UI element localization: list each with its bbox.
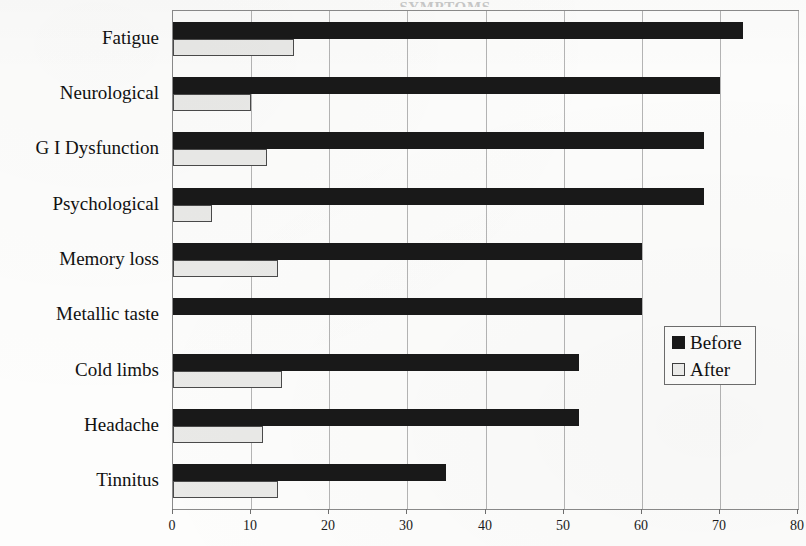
y-axis-label-headache: Headache bbox=[84, 415, 159, 434]
x-tick-label-60: 60 bbox=[634, 518, 648, 534]
bar-after bbox=[173, 205, 212, 222]
gridline-70 bbox=[720, 11, 721, 509]
x-tick-50 bbox=[563, 509, 564, 514]
x-tick-label-40: 40 bbox=[478, 518, 492, 534]
x-tick-label-80: 80 bbox=[790, 518, 804, 534]
x-tick-label-10: 10 bbox=[243, 518, 257, 534]
chart-page: SYMPTOMS FatigueNeurologicalG I Dysfunct… bbox=[0, 0, 806, 546]
x-tick-label-20: 20 bbox=[321, 518, 335, 534]
y-axis-label-memory-loss: Memory loss bbox=[59, 249, 159, 268]
x-tick-60 bbox=[641, 509, 642, 514]
x-tick-10 bbox=[250, 509, 251, 514]
bar-before bbox=[173, 188, 704, 205]
legend-entry-after: After bbox=[672, 357, 730, 381]
gridline-80 bbox=[798, 11, 799, 509]
bar-after bbox=[173, 371, 282, 388]
y-axis-label-g-i-dysfunction: G I Dysfunction bbox=[36, 138, 159, 157]
y-axis-label-fatigue: Fatigue bbox=[102, 28, 159, 47]
legend-entry-before: Before bbox=[672, 330, 742, 354]
bar-before bbox=[173, 354, 579, 371]
x-tick-label-70: 70 bbox=[712, 518, 726, 534]
x-tick-30 bbox=[406, 509, 407, 514]
bar-before bbox=[173, 298, 642, 315]
bar-before bbox=[173, 22, 743, 39]
x-tick-40 bbox=[485, 509, 486, 514]
x-axis: 01020304050607080 bbox=[172, 509, 799, 545]
bar-before bbox=[173, 243, 642, 260]
bar-after bbox=[173, 426, 263, 443]
x-tick-label-30: 30 bbox=[399, 518, 413, 534]
legend-swatch-before-icon bbox=[672, 336, 685, 349]
x-tick-70 bbox=[719, 509, 720, 514]
clipped-title-sliver: SYMPTOMS bbox=[330, 0, 560, 7]
x-tick-label-0: 0 bbox=[169, 518, 176, 534]
bar-after bbox=[173, 149, 267, 166]
y-axis-category-labels: FatigueNeurologicalG I DysfunctionPsycho… bbox=[0, 0, 165, 546]
legend-swatch-after-icon bbox=[672, 363, 685, 376]
bar-after bbox=[173, 39, 294, 56]
y-axis-label-cold-limbs: Cold limbs bbox=[75, 360, 159, 379]
x-tick-80 bbox=[797, 509, 798, 514]
legend-label-before: Before bbox=[690, 333, 742, 352]
bar-before bbox=[173, 409, 579, 426]
bar-before bbox=[173, 132, 704, 149]
chart-legend: Before After bbox=[664, 326, 756, 385]
x-tick-20 bbox=[328, 509, 329, 514]
y-axis-label-neurological: Neurological bbox=[60, 83, 159, 102]
plot-area bbox=[172, 10, 799, 510]
y-axis-label-tinnitus: Tinnitus bbox=[96, 470, 159, 489]
bar-before bbox=[173, 77, 720, 94]
y-axis-label-psychological: Psychological bbox=[52, 194, 159, 213]
x-tick-0 bbox=[172, 509, 173, 514]
bar-after bbox=[173, 260, 278, 277]
x-tick-label-50: 50 bbox=[556, 518, 570, 534]
bar-after bbox=[173, 481, 278, 498]
y-axis-label-metallic-taste: Metallic taste bbox=[56, 304, 159, 323]
legend-label-after: After bbox=[690, 360, 730, 379]
bar-before bbox=[173, 464, 446, 481]
bar-after bbox=[173, 94, 251, 111]
